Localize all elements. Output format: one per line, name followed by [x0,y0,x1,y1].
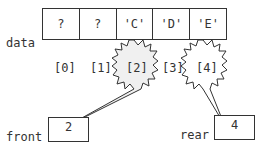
data-array: ? ? 'C' 'D' 'E' [42,8,227,40]
index-label-0: [0] [54,61,76,75]
array-cell-3: 'D' [153,9,190,39]
array-cell-2: 'C' [117,9,154,39]
front-value-box: 2 [48,117,89,142]
rear-value: 4 [231,118,238,139]
starburst-index-4 [181,40,227,124]
index-label-4: [4] [196,61,218,75]
starburst-index-2 [71,40,158,124]
index-label-1: [1] [90,61,112,75]
array-cell-4: 'E' [190,9,226,39]
array-label: data [6,36,35,50]
front-value: 2 [65,120,72,141]
array-cell-1: ? [80,9,117,39]
index-label-3: [3] [162,61,184,75]
rear-label: rear [180,128,209,142]
array-cell-0: ? [43,9,80,39]
index-label-2: [2] [126,61,148,75]
rear-value-box: 4 [214,115,255,140]
front-label: front [6,130,42,144]
